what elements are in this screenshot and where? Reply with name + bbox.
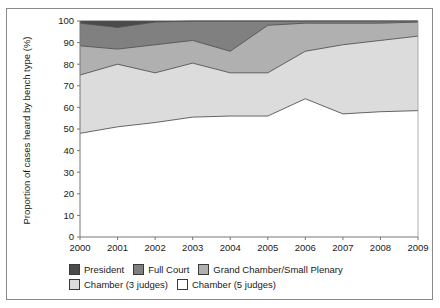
legend-swatch-grand-chamber (198, 264, 209, 275)
legend-row-1: President Full Court Grand Chamber/Small… (69, 262, 425, 276)
legend-item-president[interactable]: President (69, 264, 124, 275)
svg-text:90: 90 (63, 37, 74, 48)
svg-text:100: 100 (58, 15, 74, 26)
svg-text:2000: 2000 (69, 242, 90, 253)
legend-item-chamber-5[interactable]: Chamber (5 judges) (177, 279, 276, 290)
svg-text:2002: 2002 (145, 242, 166, 253)
chart-frame: Proportion of cases heard by bench type … (6, 8, 433, 300)
svg-text:2003: 2003 (182, 242, 203, 253)
legend-swatch-president (69, 264, 80, 275)
svg-text:20: 20 (63, 188, 74, 199)
legend-item-chamber-3[interactable]: Chamber (3 judges) (69, 279, 168, 290)
svg-text:2008: 2008 (370, 242, 391, 253)
svg-text:10: 10 (63, 210, 74, 221)
svg-text:2006: 2006 (295, 242, 316, 253)
svg-text:30: 30 (63, 167, 74, 178)
svg-text:2007: 2007 (332, 242, 353, 253)
legend-label-chamber-3: Chamber (3 judges) (84, 279, 168, 290)
svg-text:60: 60 (63, 102, 74, 113)
svg-text:2004: 2004 (220, 242, 241, 253)
legend-label-grand-chamber: Grand Chamber/Small Plenary (213, 264, 342, 275)
svg-text:2001: 2001 (107, 242, 128, 253)
legend-swatch-chamber-5 (177, 279, 188, 290)
svg-text:0: 0 (69, 231, 74, 242)
plot-area: 0102030405060708090100200020012002200320… (7, 9, 432, 299)
svg-text:2005: 2005 (257, 242, 278, 253)
svg-text:40: 40 (63, 145, 74, 156)
chart-legend: President Full Court Grand Chamber/Small… (69, 262, 425, 292)
svg-text:80: 80 (63, 59, 74, 70)
svg-text:70: 70 (63, 80, 74, 91)
legend-item-full-court[interactable]: Full Court (133, 264, 189, 275)
svg-text:50: 50 (63, 123, 74, 134)
legend-item-grand-chamber[interactable]: Grand Chamber/Small Plenary (198, 264, 342, 275)
area-chart-svg: 0102030405060708090100200020012002200320… (7, 9, 434, 301)
legend-label-full-court: Full Court (148, 264, 189, 275)
legend-swatch-chamber-3 (69, 279, 80, 290)
legend-swatch-full-court (133, 264, 144, 275)
legend-row-2: Chamber (3 judges) Chamber (5 judges) (69, 277, 425, 291)
svg-text:2009: 2009 (407, 242, 428, 253)
legend-label-chamber-5: Chamber (5 judges) (192, 279, 276, 290)
legend-label-president: President (84, 264, 124, 275)
